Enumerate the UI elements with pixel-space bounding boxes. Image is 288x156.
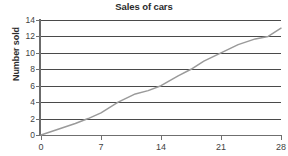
gridline-8 bbox=[41, 69, 281, 70]
y-tick-label-8: 8 bbox=[19, 64, 35, 74]
chart-container: Sales of cars Number sold 14 12 10 8 6 4… bbox=[0, 0, 288, 156]
gridline-10 bbox=[41, 53, 281, 54]
y-tick-label-4: 4 bbox=[19, 97, 35, 107]
y-tick-2 bbox=[36, 119, 41, 120]
y-tick-label-14: 14 bbox=[19, 15, 35, 25]
x-tick-label-0: 0 bbox=[31, 142, 51, 152]
y-tick-4 bbox=[36, 102, 41, 103]
y-tick-14 bbox=[36, 20, 41, 21]
chart-title: Sales of cars bbox=[0, 1, 288, 12]
x-tick-label-14: 14 bbox=[151, 142, 171, 152]
x-tick-28 bbox=[281, 135, 282, 140]
x-tick-7 bbox=[101, 135, 102, 140]
x-tick-14 bbox=[161, 135, 162, 140]
gridline-12 bbox=[41, 36, 281, 37]
plot-area bbox=[41, 20, 281, 135]
y-tick-label-12: 12 bbox=[19, 31, 35, 41]
gridline-14 bbox=[41, 20, 281, 21]
y-tick-label-10: 10 bbox=[19, 48, 35, 58]
x-tick-label-21: 21 bbox=[211, 142, 231, 152]
gridline-4 bbox=[41, 102, 281, 103]
y-tick-label-6: 6 bbox=[19, 81, 35, 91]
y-tick-8 bbox=[36, 69, 41, 70]
y-tick-12 bbox=[36, 36, 41, 37]
y-tick-label-0: 0 bbox=[19, 130, 35, 140]
x-tick-0 bbox=[41, 135, 42, 140]
x-tick-label-28: 28 bbox=[271, 142, 288, 152]
x-tick-21 bbox=[221, 135, 222, 140]
gridline-2 bbox=[41, 119, 281, 120]
y-tick-10 bbox=[36, 53, 41, 54]
y-tick-6 bbox=[36, 86, 41, 87]
x-tick-label-7: 7 bbox=[91, 142, 111, 152]
gridline-6 bbox=[41, 86, 281, 87]
y-tick-label-2: 2 bbox=[19, 114, 35, 124]
